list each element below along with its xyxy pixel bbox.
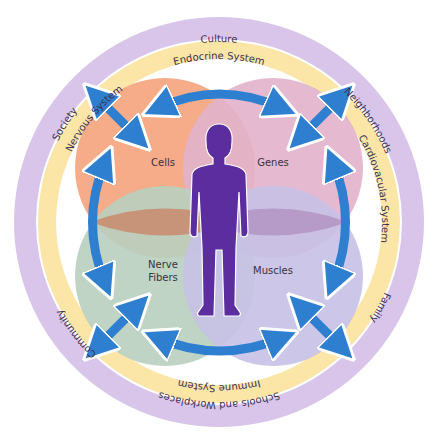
label-muscles: Muscles (253, 265, 293, 276)
label-culture: Culture (200, 33, 238, 45)
label-nerve: Nerve (148, 259, 178, 270)
label-cells: Cells (151, 157, 175, 168)
health-determinants-diagram: Cells Genes Nerve Fibers Muscles Culture… (0, 0, 433, 436)
label-fibers: Fibers (148, 272, 178, 283)
svg-text:Culture: Culture (200, 33, 238, 45)
label-genes: Genes (257, 157, 289, 168)
